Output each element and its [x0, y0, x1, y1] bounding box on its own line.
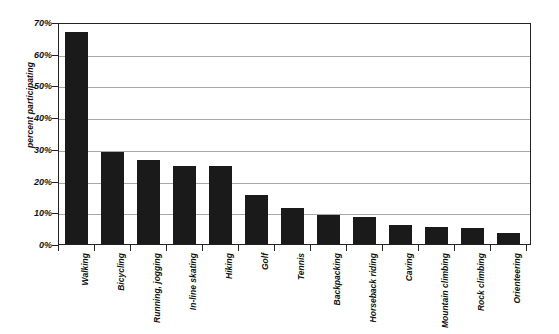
- x-tick-mark: [202, 245, 203, 251]
- y-tick-label: 60%: [8, 50, 52, 60]
- x-tick-label: Horseback riding: [368, 253, 378, 322]
- bar[interactable]: [497, 233, 520, 244]
- bar-slot: [59, 24, 95, 244]
- x-tick-label: Tennis: [296, 253, 306, 280]
- y-tick-label: 20%: [8, 177, 52, 187]
- bar-slot: [239, 24, 275, 244]
- x-tick-label: Backpacking: [332, 253, 342, 305]
- x-tick-label: Caving: [404, 253, 414, 281]
- x-tick-mark: [526, 245, 527, 251]
- bar[interactable]: [461, 228, 484, 244]
- bar-slot: [167, 24, 203, 244]
- y-tick-label: 0%: [8, 240, 52, 250]
- bar[interactable]: [353, 217, 376, 244]
- y-tick-mark: [52, 182, 58, 183]
- bar-slot: [95, 24, 131, 244]
- bar-chart: percent participating 0%10%20%30%40%50%6…: [0, 0, 559, 334]
- y-tick-label: 30%: [8, 145, 52, 155]
- bar-slot: [491, 24, 527, 244]
- bar[interactable]: [137, 160, 160, 244]
- y-tick-mark: [52, 150, 58, 151]
- y-axis-tick-labels: 0%10%20%30%40%50%60%70%: [0, 0, 52, 334]
- bar[interactable]: [209, 166, 232, 244]
- bar-slot: [311, 24, 347, 244]
- x-tick-mark: [238, 245, 239, 251]
- y-tick-mark: [52, 245, 58, 246]
- bar-slot: [455, 24, 491, 244]
- x-axis-tick-labels: WalkingBicyclingRunning, joggingIn-line …: [58, 253, 531, 334]
- x-tick-label: Bicycling: [116, 253, 126, 291]
- x-tick-label: Golf: [260, 253, 270, 270]
- y-tick-mark: [52, 86, 58, 87]
- x-tick-mark: [490, 245, 491, 251]
- x-tick-label: In-line skating: [188, 253, 198, 310]
- x-axis-tick-marks: [58, 245, 531, 253]
- y-tick-label: 10%: [8, 208, 52, 218]
- y-tick-mark: [52, 55, 58, 56]
- bar-slot: [347, 24, 383, 244]
- bar[interactable]: [317, 215, 340, 244]
- bar-series: [59, 24, 530, 244]
- x-tick-label: Walking: [80, 253, 90, 285]
- bar[interactable]: [173, 166, 196, 244]
- y-tick-label: 70%: [8, 18, 52, 28]
- bar[interactable]: [281, 208, 304, 244]
- bar-slot: [131, 24, 167, 244]
- bar-slot: [275, 24, 311, 244]
- x-tick-label: Mountain climbing: [440, 253, 450, 328]
- x-tick-mark: [454, 245, 455, 251]
- bar[interactable]: [425, 227, 448, 244]
- x-tick-mark: [310, 245, 311, 251]
- x-tick-label: Hiking: [224, 253, 234, 279]
- x-tick-label: Rock climbing: [476, 253, 486, 311]
- bar-slot: [383, 24, 419, 244]
- bar[interactable]: [389, 225, 412, 244]
- y-tick-mark: [52, 213, 58, 214]
- plot-area: [58, 23, 531, 245]
- bar[interactable]: [65, 32, 88, 244]
- y-tick-mark: [52, 118, 58, 119]
- x-tick-label: Running, jogging: [152, 253, 162, 323]
- x-tick-mark: [382, 245, 383, 251]
- y-tick-label: 50%: [8, 81, 52, 91]
- bar-slot: [419, 24, 455, 244]
- x-tick-mark: [130, 245, 131, 251]
- y-tick-mark: [52, 23, 58, 24]
- bar[interactable]: [245, 195, 268, 244]
- x-tick-label: Orienteering: [512, 253, 522, 304]
- bar[interactable]: [101, 152, 124, 244]
- x-tick-mark: [58, 245, 59, 251]
- x-tick-mark: [166, 245, 167, 251]
- x-tick-mark: [274, 245, 275, 251]
- x-tick-mark: [418, 245, 419, 251]
- y-tick-label: 40%: [8, 113, 52, 123]
- bar-slot: [203, 24, 239, 244]
- x-tick-mark: [94, 245, 95, 251]
- x-tick-mark: [346, 245, 347, 251]
